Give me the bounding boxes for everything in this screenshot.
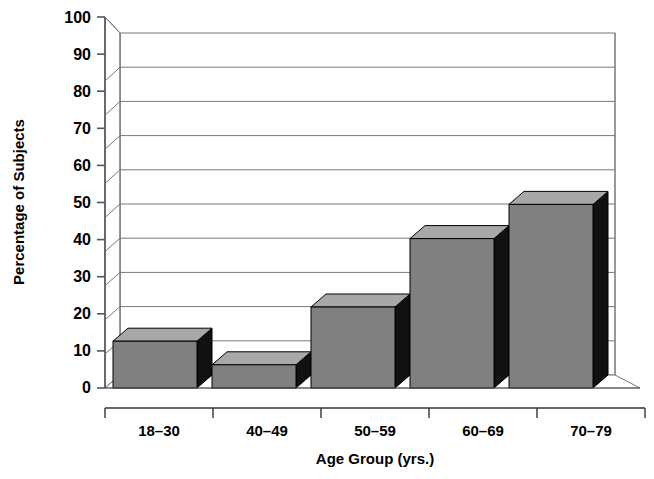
y-tick-label-100: 100 [64,9,91,26]
bar-top-2 [311,294,410,307]
x-axis-title: Age Group (yrs.) [316,450,434,467]
y-tick-label-70: 70 [73,120,91,137]
y-tick-label-30: 30 [73,268,91,285]
left-wall [105,17,120,388]
bar-side-4 [593,191,608,388]
y-tick-label-80: 80 [73,83,91,100]
bar-top-3 [410,226,509,239]
bar-side-3 [494,226,509,388]
bar-group-4 [509,191,608,388]
x-category-label-0: 18–30 [138,422,180,439]
y-tick-label-10: 10 [73,342,91,359]
y-axis-tick-labels: 100 90 80 70 60 50 40 30 20 10 0 [64,9,91,396]
bar-side-2 [395,294,410,388]
chart-canvas: 100 90 80 70 60 50 40 30 20 10 0 Percent… [0,0,654,479]
x-category-label-2: 50–59 [354,422,396,439]
x-category-label-1: 40–49 [246,422,288,439]
bar-group-0 [113,328,212,388]
x-category-label-4: 70–79 [570,422,612,439]
y-axis-title: Percentage of Subjects [10,119,27,285]
bar-group-3 [410,226,509,388]
bar-front-2 [311,307,395,388]
x-category-label-3: 60–69 [462,422,504,439]
y-tick-label-60: 60 [73,157,91,174]
bar-chart-figure: 100 90 80 70 60 50 40 30 20 10 0 Percent… [0,0,654,479]
bar-group-2 [311,294,410,388]
y-tick-label-90: 90 [73,46,91,63]
y-axis: 100 90 80 70 60 50 40 30 20 10 0 Percent… [10,9,105,396]
y-tick-label-0: 0 [82,379,91,396]
bar-top-4 [509,191,608,204]
x-axis: 18–30 40–49 50–59 60–69 70–79 Age Group … [105,408,645,467]
bar-front-3 [410,239,494,388]
bar-top-1 [212,352,311,365]
y-tick-label-40: 40 [73,231,91,248]
bar-group-1 [212,352,311,388]
y-tick-label-50: 50 [73,194,91,211]
bar-front-4 [509,204,593,388]
y-tick-label-20: 20 [73,305,91,322]
bar-front-1 [212,365,296,388]
bar-top-0 [113,328,212,341]
bar-front-0 [113,341,197,388]
y-axis-ticks [97,17,105,388]
